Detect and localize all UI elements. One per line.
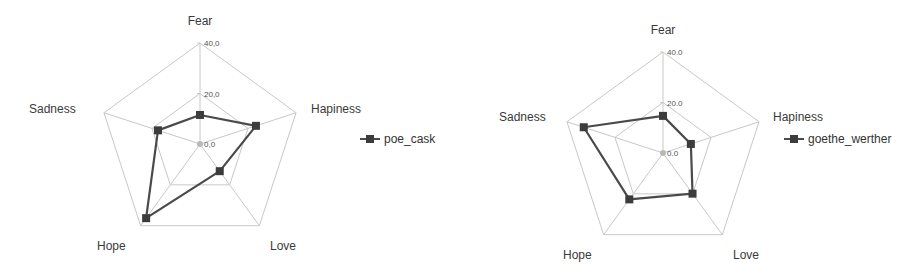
r-tick-label: 20,0 bbox=[204, 90, 220, 99]
radar-chart-goethe-werther: 0.020.040.0FearHapinessLoveHopeSadnessgo… bbox=[450, 0, 905, 278]
r-tick-label: 40.0 bbox=[667, 48, 683, 57]
r-tick-label: 20.0 bbox=[667, 99, 683, 108]
legend-square-marker-icon bbox=[366, 135, 374, 143]
axis-label-fear: Fear bbox=[188, 14, 213, 28]
series-goethe_werther bbox=[580, 112, 697, 203]
series-poe_cask bbox=[142, 111, 260, 222]
axis-label-love: Love bbox=[733, 248, 759, 262]
radar-grid bbox=[567, 52, 759, 235]
data-point-square-icon[interactable] bbox=[689, 190, 697, 198]
legend: goethe_werther bbox=[784, 132, 891, 146]
center-marker-icon bbox=[660, 150, 666, 156]
r-tick-label: 40,0 bbox=[204, 39, 220, 48]
data-point-square-icon[interactable] bbox=[196, 111, 204, 119]
legend-square-marker-icon bbox=[790, 135, 798, 143]
axis-spoke bbox=[104, 113, 200, 144]
data-point-square-icon[interactable] bbox=[625, 195, 633, 203]
r-tick-label: 0,0 bbox=[204, 140, 216, 149]
radar-chart-poe-cask: 0,020,040,0FearHapinessLoveHopeSadnesspo… bbox=[0, 0, 450, 278]
legend-label: goethe_werther bbox=[808, 132, 891, 146]
data-point-square-icon[interactable] bbox=[252, 122, 260, 130]
axis-label-fear: Fear bbox=[651, 23, 676, 37]
axis-label-hapiness: Hapiness bbox=[311, 102, 361, 116]
data-point-square-icon[interactable] bbox=[142, 214, 150, 222]
data-point-square-icon[interactable] bbox=[216, 167, 224, 175]
r-tick-label: 0.0 bbox=[667, 149, 679, 158]
data-point-square-icon[interactable] bbox=[154, 126, 162, 134]
radar-chart-svg: 0.020.040.0FearHapinessLoveHopeSadnessgo… bbox=[450, 0, 905, 278]
legend-label: poe_cask bbox=[384, 132, 436, 146]
data-point-square-icon[interactable] bbox=[659, 112, 667, 120]
axis-label-sadness: Sadness bbox=[499, 110, 546, 124]
axis-label-hope: Hope bbox=[97, 239, 126, 253]
legend: poe_cask bbox=[360, 132, 436, 146]
axis-label-hapiness: Hapiness bbox=[773, 110, 823, 124]
series-line bbox=[146, 115, 256, 218]
data-point-square-icon[interactable] bbox=[580, 123, 588, 131]
data-point-square-icon[interactable] bbox=[687, 140, 695, 148]
center-marker-icon bbox=[197, 141, 203, 147]
axis-label-love: Love bbox=[270, 239, 296, 253]
axis-label-hope: Hope bbox=[563, 248, 592, 262]
radar-grid bbox=[104, 43, 296, 226]
axis-label-sadness: Sadness bbox=[29, 102, 76, 116]
radar-chart-svg: 0,020,040,0FearHapinessLoveHopeSadnesspo… bbox=[0, 0, 450, 278]
